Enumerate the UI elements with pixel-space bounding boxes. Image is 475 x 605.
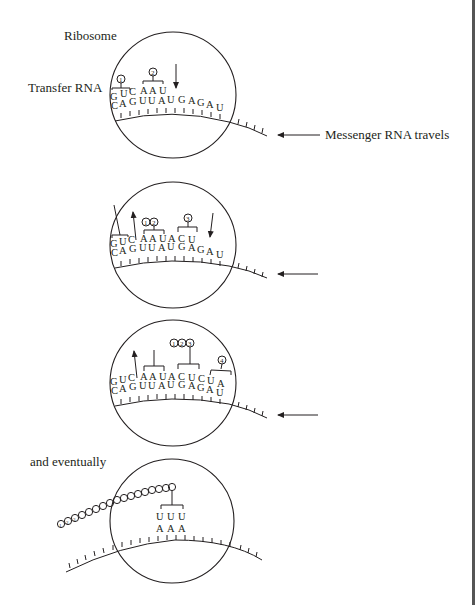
svg-text:A: A [158,242,166,253]
svg-text:U: U [167,379,175,390]
ribosome-label: Ribosome [64,28,117,43]
mrna-ticks [121,394,263,416]
svg-text:U: U [148,242,156,253]
svg-text:3: 3 [188,340,192,348]
svg-text:A: A [206,246,214,257]
svg-text:U: U [167,94,175,105]
trna-4: 4 [210,356,231,375]
svg-text:3: 3 [73,517,76,522]
svg-text:A: A [178,523,186,534]
mrna-ticks [69,535,257,568]
protein-synthesis-diagram: Ribosome Transfer RNA G U C A A U C A G … [0,0,475,605]
svg-text:A: A [188,380,196,391]
svg-text:1: 1 [59,523,62,528]
svg-text:1: 1 [119,76,123,84]
svg-text:1: 1 [172,340,176,348]
svg-text:A: A [158,95,166,106]
svg-text:G: G [197,382,205,393]
svg-text:4: 4 [220,357,224,365]
mrna-strand [66,540,262,572]
svg-text:G: G [178,379,186,390]
trna-3: 3 [178,214,197,232]
trna-peptide-1-2: 1 2 [142,218,164,234]
svg-text:G: G [178,94,186,105]
transfer-rna-label: Transfer RNA [28,80,103,95]
svg-text:2: 2 [152,219,156,227]
svg-text:A: A [156,523,164,534]
svg-text:A: A [119,245,127,256]
trna-peptide-1-2-3: 1 2 3 [170,339,199,369]
svg-text:U: U [139,95,147,106]
svg-text:U: U [216,387,224,398]
svg-text:C: C [111,100,118,111]
trna-1: 1 [112,75,130,90]
svg-text:G: G [129,243,137,254]
final-trna [161,491,183,509]
svg-text:2: 2 [66,520,69,525]
svg-text:U: U [148,95,156,106]
incoming-arrow [210,213,213,237]
svg-text:U: U [156,511,164,522]
svg-text:A: A [206,384,214,395]
svg-text:A: A [158,380,166,391]
mrna-strand [115,114,267,136]
trna-2: 2 [143,68,163,84]
mrna-ticks [121,108,263,133]
svg-text:A: A [188,95,196,106]
mrna-strand [115,399,267,418]
protein-chain-labels: 1 2 3 [59,517,76,528]
panel-1: Ribosome Transfer RNA G U C A A U C A G … [28,28,449,158]
svg-text:U: U [139,242,147,253]
svg-text:U: U [148,380,156,391]
svg-text:3: 3 [186,215,190,223]
svg-text:2: 2 [180,340,184,348]
svg-text:G: G [129,381,137,392]
svg-text:U: U [139,380,147,391]
svg-text:U: U [178,511,186,522]
panel-4: and eventually 1 2 3 [30,454,262,583]
svg-text:1: 1 [144,219,148,227]
svg-text:U: U [216,249,224,260]
panel-2: G U C A A U A C U C A G U U A U G A G A … [110,182,318,308]
svg-text:2: 2 [151,69,155,77]
svg-text:A: A [167,523,175,534]
svg-text:G: G [129,96,137,107]
svg-text:C: C [111,247,118,258]
mrna-strand [115,261,267,278]
svg-text:A: A [119,98,127,109]
svg-text:U: U [216,102,224,113]
svg-text:C: C [111,385,118,396]
mrna-bases: C A G U U A U G A G A U [111,94,224,113]
svg-text:A: A [206,99,214,110]
svg-text:G: G [197,244,205,255]
svg-text:U: U [167,241,175,252]
mrna-ticks [121,256,263,277]
panel-3: G U C A A U A C U C U A C A G U U A U G … [110,320,318,446]
svg-text:A: A [119,383,127,394]
svg-text:A: A [188,242,196,253]
trna-leaving [144,350,164,371]
svg-text:U: U [167,511,175,522]
messenger-rna-label: Messenger RNA travels [325,127,449,142]
final-codon-bases: U U U A A A [156,511,186,534]
and-eventually-label: and eventually [30,454,107,469]
svg-text:G: G [178,241,186,252]
svg-text:G: G [197,97,205,108]
